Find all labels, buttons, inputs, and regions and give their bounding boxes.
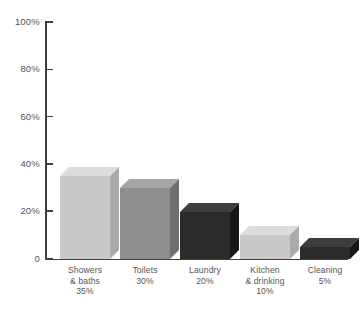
bar-front-face xyxy=(60,176,110,259)
y-axis-tick xyxy=(45,163,53,165)
y-axis-tick-label: 20% xyxy=(0,206,40,216)
y-axis-tick-label: 0 xyxy=(0,254,40,264)
bar xyxy=(60,176,110,259)
y-axis-tick-label: 100% xyxy=(0,17,40,27)
bar-front-face xyxy=(180,212,230,259)
bar-front-face xyxy=(120,188,170,259)
y-axis-tick xyxy=(45,258,53,260)
y-axis-tick-label: 40% xyxy=(0,159,40,169)
bar-side-face xyxy=(170,179,179,259)
bar xyxy=(300,247,350,259)
bar-side-face xyxy=(110,167,119,259)
category-value: 5% xyxy=(288,276,362,287)
bar xyxy=(240,235,290,259)
category-value: 10% xyxy=(228,286,302,297)
bar-front-face xyxy=(240,235,290,259)
category-value: 35% xyxy=(48,286,122,297)
bar-front-face xyxy=(300,247,350,259)
y-axis-tick xyxy=(45,69,53,71)
y-axis-tick-label: 60% xyxy=(0,112,40,122)
category-name: Cleaning xyxy=(288,265,362,276)
y-axis-line xyxy=(45,22,47,260)
bar-side-face xyxy=(230,203,239,259)
y-axis-tick xyxy=(45,210,53,212)
bar xyxy=(180,212,230,259)
y-axis-tick xyxy=(45,21,53,23)
y-axis-tick-label: 80% xyxy=(0,64,40,74)
x-axis-category-label: Cleaning5% xyxy=(288,265,362,286)
bar xyxy=(120,188,170,259)
bar-chart: 020%40%60%80%100% Showers & baths35%Toil… xyxy=(0,0,363,314)
y-axis-tick xyxy=(45,116,53,118)
